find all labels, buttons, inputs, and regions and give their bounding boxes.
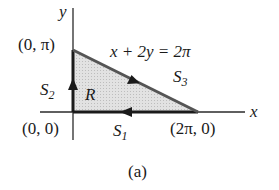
figure-caption: (a) xyxy=(128,162,147,181)
y-axis-label: y xyxy=(57,2,67,21)
segment-label-s2: S2 xyxy=(40,80,55,102)
segment-label-s1: S1 xyxy=(113,121,128,143)
point-origin-label: (0, 0) xyxy=(22,119,59,138)
point-top-label: (0, π) xyxy=(18,35,55,54)
region-label: R xyxy=(84,85,96,104)
equation-label: x + 2y = 2π xyxy=(109,42,191,61)
segment-label-s3: S3 xyxy=(173,67,188,89)
triangle-region-diagram: y x (0, π) (0, 0) (2π, 0) x + 2y = 2π R … xyxy=(0,0,279,190)
x-axis-label: x xyxy=(249,102,258,121)
point-right-label: (2π, 0) xyxy=(170,119,215,138)
